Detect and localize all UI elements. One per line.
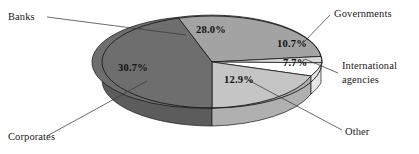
callout-label-corporates: Corporates (8, 131, 55, 143)
callout-label-other: Other (345, 126, 369, 138)
callout-label-international-agencies-line2: agencies (342, 74, 379, 86)
value-label-international-agencies: 7.7% (283, 57, 307, 68)
value-label-corporates: 30.7% (118, 62, 148, 73)
leader-line-governments (303, 15, 330, 43)
value-label-governments: 10.7% (277, 38, 307, 49)
callout-label-international-agencies-line1: International (342, 60, 397, 72)
pie-chart: Banks Governments International agencies… (0, 0, 419, 154)
value-label-other: 12.9% (224, 74, 254, 85)
callout-label-governments: Governments (334, 8, 392, 20)
callout-label-banks: Banks (8, 11, 35, 23)
value-label-banks: 28.0% (196, 24, 226, 35)
